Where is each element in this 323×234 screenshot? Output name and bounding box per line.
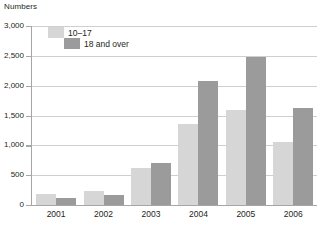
bar-2004-adult[interactable]	[198, 81, 218, 205]
x-tick-label-2002: 2002	[80, 209, 127, 219]
bar-2002-youth[interactable]	[84, 191, 104, 205]
bar-2004-youth[interactable]	[178, 124, 198, 205]
legend-swatch-youth	[48, 27, 64, 38]
legend-item-youth: 10–17	[48, 27, 168, 38]
legend-label-youth: 10–17	[68, 28, 92, 38]
bar-2003-youth[interactable]	[131, 168, 151, 205]
bar-2005-adult[interactable]	[246, 57, 266, 205]
bar-group	[270, 26, 317, 205]
legend-swatch-adult	[64, 38, 80, 49]
x-tick-label-2004: 2004	[175, 209, 222, 219]
y-axis-ticks: 05001,0001,5002,0002,5003,000	[0, 26, 31, 206]
bar-2005-youth[interactable]	[226, 110, 246, 205]
bar-2006-youth[interactable]	[273, 142, 293, 205]
y-tick-label: 1,000	[4, 140, 24, 149]
bar-group	[175, 26, 222, 205]
bar-2002-adult[interactable]	[104, 195, 124, 205]
y-tick-label: 3,000	[4, 21, 24, 30]
legend-label-adult: 18 and over	[84, 39, 129, 49]
y-tick-label: 1,500	[4, 111, 24, 120]
bar-group	[32, 26, 79, 205]
bar-group	[222, 26, 269, 205]
legend-item-adult: 18 and over	[48, 38, 168, 49]
chart-container: Numbers 05001,0001,5002,0002,5003,000 20…	[0, 0, 323, 234]
x-axis-labels: 200120022003200420052006	[32, 209, 317, 219]
y-tick-label: 2,500	[4, 51, 24, 60]
bar-2001-adult[interactable]	[56, 198, 76, 205]
chart-legend: 10–17 18 and over	[48, 27, 168, 49]
y-tick-label: 2,000	[4, 81, 24, 90]
x-tick-label-2001: 2001	[32, 209, 79, 219]
plot-area	[31, 26, 317, 206]
y-tick-label: 500	[11, 170, 24, 179]
x-tick-label-2005: 2005	[222, 209, 269, 219]
bar-2003-adult[interactable]	[151, 163, 171, 205]
y-tick-label: 0	[20, 200, 24, 209]
x-tick-label-2006: 2006	[270, 209, 317, 219]
bar-group	[80, 26, 127, 205]
bar-groups	[32, 26, 317, 205]
y-axis-title: Numbers	[4, 2, 37, 11]
bar-2006-adult[interactable]	[293, 108, 313, 205]
bar-group	[127, 26, 174, 205]
x-axis-line	[31, 205, 317, 206]
bar-2001-youth[interactable]	[36, 194, 56, 205]
x-tick-label-2003: 2003	[127, 209, 174, 219]
